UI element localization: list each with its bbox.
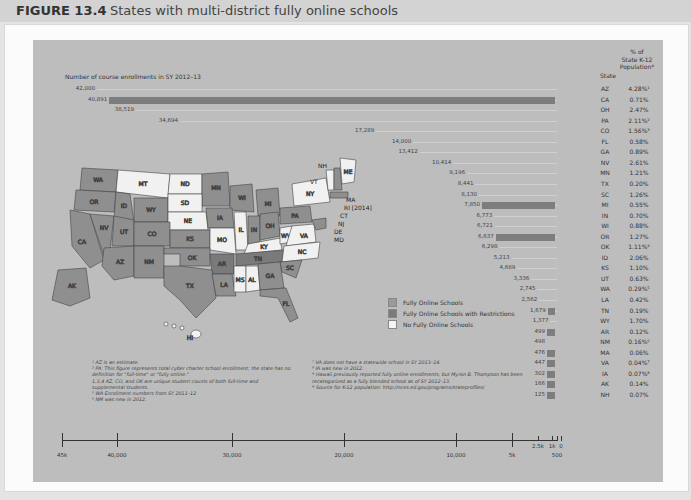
bar-guide — [550, 321, 557, 322]
footnote: 1,3,4 AZ, CO, and OK are unique student … — [92, 379, 292, 391]
axis-tick — [456, 433, 457, 447]
state-code: NV — [590, 159, 620, 166]
state-code: CO — [590, 127, 620, 134]
axis-tick-label: 30,000 — [222, 452, 241, 458]
state-fl — [260, 288, 298, 322]
pct-value: 1.11%⁴ — [618, 243, 660, 250]
legend-item-restrictions: Fully Online Schools with Restrictions — [388, 308, 515, 319]
svg-text:TN: TN — [253, 255, 262, 262]
state-code: ID — [590, 254, 620, 261]
footnote: ⁶ NM was new in 2012. — [92, 397, 292, 403]
svg-text:NC: NC — [298, 248, 307, 255]
bar-guide — [495, 226, 557, 227]
state-tx — [164, 266, 216, 318]
bar-guide — [475, 184, 557, 185]
bar-value: 3,336 — [489, 275, 529, 281]
svg-text:WI: WI — [238, 194, 246, 201]
state-code: OK — [590, 243, 620, 250]
bar-guide — [97, 89, 557, 90]
pct-value: 1.70% — [618, 317, 660, 324]
bar-value: 34,694 — [138, 117, 178, 123]
svg-text:MN: MN — [211, 184, 221, 191]
axis-tick-label: 500 — [552, 452, 563, 458]
state-code: IN — [590, 212, 620, 219]
legend-label: Fully Online Schools — [403, 299, 463, 306]
svg-text:MI: MI — [265, 200, 272, 207]
bar-value: 5,213 — [470, 254, 510, 260]
legend-label: No Fully Online Schools — [403, 321, 473, 328]
state-code: MA — [590, 349, 620, 356]
bar-value: 14,000 — [371, 138, 411, 144]
svg-text:AL: AL — [248, 276, 256, 283]
svg-text:WA: WA — [93, 176, 104, 183]
axis-tick-label: 2.5k — [532, 443, 544, 449]
pct-value: 0.71% — [618, 96, 660, 103]
svg-text:PA: PA — [291, 212, 299, 219]
bar-guide — [420, 152, 557, 153]
pct-value: 0.63% — [618, 275, 660, 282]
state-code: LA — [590, 296, 620, 303]
bar-guide — [517, 268, 557, 269]
state-code: AR — [590, 328, 620, 335]
pct-value: 0.04%⁷ — [618, 359, 660, 366]
pct-value: 0.88% — [618, 222, 660, 229]
pct-value: 1.10% — [618, 264, 660, 271]
pct-value: 4.28%¹ — [618, 85, 660, 92]
pct-value: 0.55% — [618, 201, 660, 208]
axis-tick-label: 45k — [57, 452, 67, 458]
state-column-header: State — [600, 72, 616, 79]
bar-or — [496, 234, 555, 241]
footnotes-left: ¹ AZ is an estimate. ² PA: This figure r… — [92, 360, 292, 403]
svg-text:FL: FL — [283, 300, 290, 307]
pct-value: 0.06% — [618, 349, 660, 356]
axis-tick — [344, 433, 345, 447]
pct-value: 0.14% — [618, 380, 660, 387]
svg-text:NY: NY — [306, 190, 314, 197]
bar-nh — [547, 392, 555, 399]
state-code: TN — [590, 307, 620, 314]
axis-tick — [232, 433, 233, 447]
state-hi — [164, 322, 201, 338]
bar-guide — [512, 258, 557, 259]
pct-value: 0.70% — [618, 212, 660, 219]
ri-label: RI [2014] — [344, 204, 372, 211]
svg-text:VA: VA — [300, 232, 309, 239]
pct-value: 1.27% — [618, 233, 660, 240]
bar-ia — [547, 371, 555, 378]
legend-swatch — [388, 298, 397, 307]
pct-value: 0.16%⁶ — [618, 338, 660, 345]
axis-tick-label: 1k — [549, 443, 556, 449]
svg-text:HI: HI — [187, 334, 194, 341]
pct-value: 2.47% — [618, 106, 660, 113]
svg-text:VT: VT — [310, 178, 318, 185]
svg-text:ND: ND — [180, 180, 189, 187]
axis-tick — [557, 436, 558, 441]
svg-text:NM: NM — [144, 258, 154, 265]
state-code: SC — [590, 191, 620, 198]
axis-tick — [561, 436, 562, 441]
bar-va — [547, 360, 555, 367]
figure-number: FIGURE 13.4 — [16, 3, 106, 18]
pct-value: 0.89% — [618, 148, 660, 155]
state-code: GA — [590, 148, 620, 155]
axis-tick-label: 20,000 — [334, 452, 353, 458]
pct-value: 2.61% — [618, 159, 660, 166]
bar-ar — [547, 329, 555, 336]
state-code: NH — [590, 391, 620, 398]
bar-value: 125 — [505, 391, 545, 397]
figure-title-bar: FIGURE 13.4 States with multi-district f… — [0, 0, 691, 22]
bar-guide — [413, 142, 557, 143]
state-code: OH — [590, 106, 620, 113]
bar-guide — [494, 216, 557, 217]
bar-value: 8,441 — [433, 180, 473, 186]
pct-value: 0.07% — [618, 391, 660, 398]
state-code: WI — [590, 222, 620, 229]
map-legend: Fully Online Schools Fully Online School… — [388, 297, 515, 330]
svg-text:AZ: AZ — [116, 258, 124, 265]
state-code: FL — [590, 138, 620, 145]
state-code: IA — [590, 370, 620, 377]
bar-guide — [539, 300, 557, 301]
state-code: PA — [590, 117, 620, 124]
axis-tick-label: 10,000 — [446, 452, 465, 458]
bar-value: 498 — [505, 338, 545, 344]
